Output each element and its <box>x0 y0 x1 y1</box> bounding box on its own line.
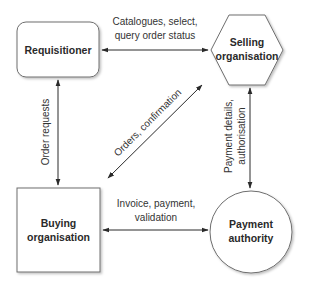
edge-label-line2: validation <box>135 212 177 223</box>
double-arrow <box>108 85 202 178</box>
node-payment-authority: Payment authority <box>210 191 292 273</box>
edge-requisitioner-selling: Catalogues, select, query order status <box>102 16 208 50</box>
selling-label-line2: organisation <box>215 50 278 62</box>
buying-label-line2: organisation <box>27 231 90 243</box>
node-selling-organisation: Selling organisation <box>211 15 283 85</box>
edge-label-line1: Invoice, payment, <box>117 198 195 209</box>
edge-selling-payment: Payment details, authorisation <box>223 88 250 188</box>
requisitioner-label: Requisitioner <box>24 44 91 56</box>
node-buying-organisation: Buying organisation <box>17 188 100 272</box>
payment-label-line2: authority <box>229 232 274 244</box>
buying-label-line1: Buying <box>41 217 77 229</box>
buying-box <box>17 188 100 272</box>
selling-label-line1: Selling <box>230 36 264 48</box>
edge-label-line1: Catalogues, select, <box>112 16 197 27</box>
edge-label: Order requests <box>40 99 51 166</box>
edge-label-line1: Payment details, <box>223 99 234 173</box>
edge-buying-payment: Invoice, payment, validation <box>103 198 208 230</box>
edge-requisitioner-buying: Order requests <box>40 80 58 185</box>
node-requisitioner: Requisitioner <box>17 22 99 77</box>
edge-label: Orders, confirmation <box>112 87 184 159</box>
edge-buying-selling: Orders, confirmation <box>108 85 202 178</box>
edge-label-line2: authorisation <box>236 107 247 164</box>
payment-label-line1: Payment <box>229 218 273 230</box>
edge-label-line2: query order status <box>115 30 196 41</box>
diagram-canvas: Requisitioner Selling organisation Buyin… <box>0 0 312 285</box>
